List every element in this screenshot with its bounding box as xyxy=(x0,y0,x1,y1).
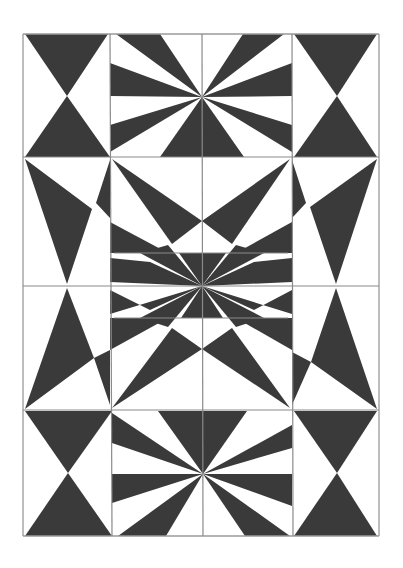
geometric-drawing xyxy=(0,0,403,568)
